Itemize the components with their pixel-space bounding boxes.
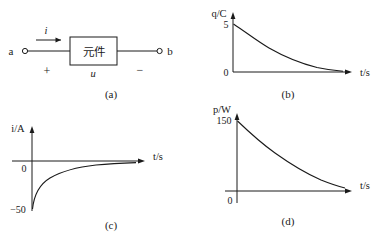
voltage-label: u [90,68,95,79]
y-tick-5: 5 [224,19,229,30]
origin-label: 0 [228,195,233,206]
y-axis-label: q/C [211,8,226,19]
origin-label: 0 [224,67,229,78]
x-axis-arrow [345,189,352,194]
polarity-plus: + [44,64,51,78]
x-axis-arrow [138,159,145,164]
terminal-b-node [157,48,162,53]
terminal-a-label: a [9,45,14,57]
caption-d: (d) [191,215,385,227]
x-axis-label: t/s [360,67,370,78]
panel-d-chart: p/W t/s 150 0 (d) [195,123,389,246]
panel-a-circuit: a b i 元件 + u − (a) [0,0,194,123]
terminal-b-label: b [167,45,173,57]
panel-c-chart: i/A t/s 0 −50 (c) [0,123,194,246]
figure-container: a b i 元件 + u − (a) q/C t/s 5 0 (b) [0,0,389,246]
decay-curve [234,24,344,71]
current-arrow-head [56,38,62,43]
polarity-minus: − [137,63,144,77]
caption-c: (c) [14,219,208,231]
x-axis-label: t/s [360,180,370,191]
origin-label: 0 [22,163,27,174]
caption-a: (a) [14,88,208,100]
x-axis-label: t/s [153,151,163,162]
y-tick-minus-50: −50 [10,204,26,215]
decay-curve [238,121,346,188]
x-axis-arrow [345,70,352,75]
y-axis-label: p/W [213,104,231,115]
component-label: 元件 [83,45,105,59]
y-tick-150: 150 [217,115,232,126]
current-label: i [45,25,48,36]
rise-curve [33,163,137,209]
y-axis-arrow [30,126,35,133]
caption-b: (b) [191,88,385,100]
y-axis-label: i/A [11,123,25,134]
y-axis-arrow [231,12,236,19]
terminal-a-node [22,48,27,53]
